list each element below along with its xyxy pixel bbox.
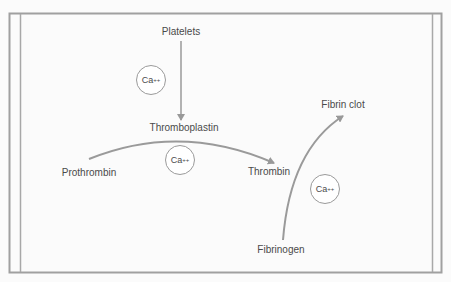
frame-border	[10, 14, 442, 273]
label-thrombin: Thrombin	[248, 166, 290, 177]
label-platelets: Platelets	[162, 26, 200, 37]
calcium-ion-circle-3: Ca++	[310, 174, 340, 204]
calcium-symbol: Ca	[316, 184, 328, 194]
label-thromboplastin: Thromboplastin	[150, 122, 219, 133]
label-fibrinogen: Fibrinogen	[257, 244, 304, 255]
calcium-symbol: Ca	[142, 75, 154, 85]
label-prothrombin: Prothrombin	[62, 167, 116, 178]
calcium-symbol: Ca	[171, 155, 183, 165]
label-fibrin-clot: Fibrin clot	[321, 99, 364, 110]
calcium-ion-circle-2: Ca++	[165, 145, 195, 175]
diagram-canvas	[0, 0, 451, 282]
calcium-ion-circle-1: Ca++	[136, 65, 166, 95]
